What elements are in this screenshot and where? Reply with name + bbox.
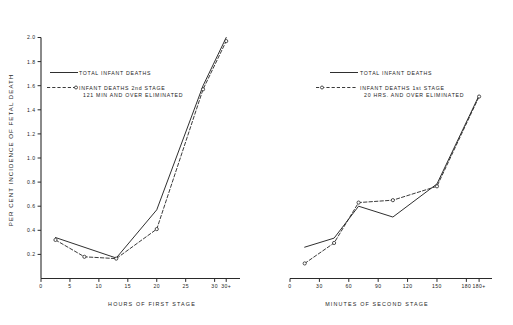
left-x-axis: 05101520253030+ xyxy=(39,279,240,290)
left-x-tick-label: 15 xyxy=(125,283,132,289)
right-legend-dashed-label-line2: 20 HRS. AND OVER ELIMINATED xyxy=(364,92,464,98)
left-x-tick-label: 5 xyxy=(68,283,71,289)
right-x-tick-label: 60 xyxy=(345,283,352,289)
left-x-tick-label: 30 xyxy=(211,283,218,289)
right-x-axis-title: MINUTES OF SECOND STAGE xyxy=(325,301,429,307)
right-legend-dashed-marker xyxy=(321,86,324,89)
y-tick-label: 1.2 xyxy=(27,131,35,137)
left-legend-dashed-marker xyxy=(75,86,78,89)
right-data-point xyxy=(435,185,438,188)
left-data-point xyxy=(155,227,158,230)
y-axis-label: PER CENT INCIDENCE OF FETAL DEATH xyxy=(7,74,14,227)
left-data-point xyxy=(54,238,57,241)
left-legend-dashed-label-line2: 121 MIN AND OVER ELIMINATED xyxy=(83,92,183,98)
right-series-1-line xyxy=(305,97,479,264)
left-data-point xyxy=(201,88,204,91)
y-tick-label: 0.8 xyxy=(27,179,35,185)
left-x-axis-title: HOURS OF FIRST STAGE xyxy=(108,301,196,307)
right-x-tick-label: 30 xyxy=(316,283,323,289)
right-legend-dashed-label-line1: INFANT DEATHS 1st STAGE xyxy=(360,85,445,91)
left-legend-solid-label: TOTAL INFANT DEATHS xyxy=(79,70,151,76)
right-x-tick-label: 90 xyxy=(375,283,382,289)
right-x-tick-label: 150 xyxy=(432,283,442,289)
y-tick-label: 1.6 xyxy=(27,83,35,89)
right-legend: TOTAL INFANT DEATHS INFANT DEATHS 1st ST… xyxy=(316,70,464,98)
left-data-point xyxy=(225,40,228,43)
right-data-point xyxy=(332,241,335,244)
left-x-tick-label: 10 xyxy=(96,283,103,289)
right-data-point xyxy=(391,199,394,202)
left-x-tick-label: 20 xyxy=(153,283,160,289)
fetal-death-incidence-figure: PER CENT INCIDENCE OF FETAL DEATH 0.20.4… xyxy=(0,0,513,325)
left-x-tick-label: 0 xyxy=(39,283,42,289)
right-series-group xyxy=(303,95,481,265)
left-legend-dashed-label-line1: INFANT DEATHS 2nd STAGE xyxy=(79,85,165,91)
y-tick-label: 0.6 xyxy=(27,203,35,209)
y-tick-label: 1.8 xyxy=(27,59,35,65)
right-x-tick-label: 0 xyxy=(288,283,291,289)
y-tick-label: 2.0 xyxy=(27,34,35,40)
left-data-point xyxy=(83,255,86,258)
right-x-tick-label: 180 xyxy=(461,283,471,289)
right-x-tick-label: 120 xyxy=(403,283,413,289)
left-data-point xyxy=(115,257,118,260)
right-panel-minutes-of-second-stage: 0306090120150180180+ MINUTES OF SECOND S… xyxy=(288,70,492,307)
left-x-tick-label: 25 xyxy=(182,283,189,289)
chart-canvas: PER CENT INCIDENCE OF FETAL DEATH 0.20.4… xyxy=(0,0,513,325)
left-x-tick-label: 30+ xyxy=(221,283,231,289)
right-series-0-line xyxy=(305,95,479,247)
right-data-point xyxy=(478,95,481,98)
left-panel-hours-of-first-stage: 05101520253030+ HOURS OF FIRST STAGE TOT… xyxy=(39,38,240,308)
right-x-axis: 0306090120150180180+ xyxy=(288,279,492,290)
y-tick-label: 1.0 xyxy=(27,155,35,161)
right-data-point xyxy=(303,262,306,265)
right-x-tick-label: 180+ xyxy=(472,283,485,289)
y-tick-label: 0.2 xyxy=(27,251,35,257)
right-legend-solid-label: TOTAL INFANT DEATHS xyxy=(360,70,432,76)
y-tick-label: 0.4 xyxy=(27,227,35,233)
y-axis: 0.20.40.60.81.01.21.41.61.82.0 xyxy=(27,34,41,278)
left-legend: TOTAL INFANT DEATHS INFANT DEATHS 2nd ST… xyxy=(47,70,183,98)
y-tick-label: 1.4 xyxy=(27,107,35,113)
right-data-point xyxy=(357,201,360,204)
